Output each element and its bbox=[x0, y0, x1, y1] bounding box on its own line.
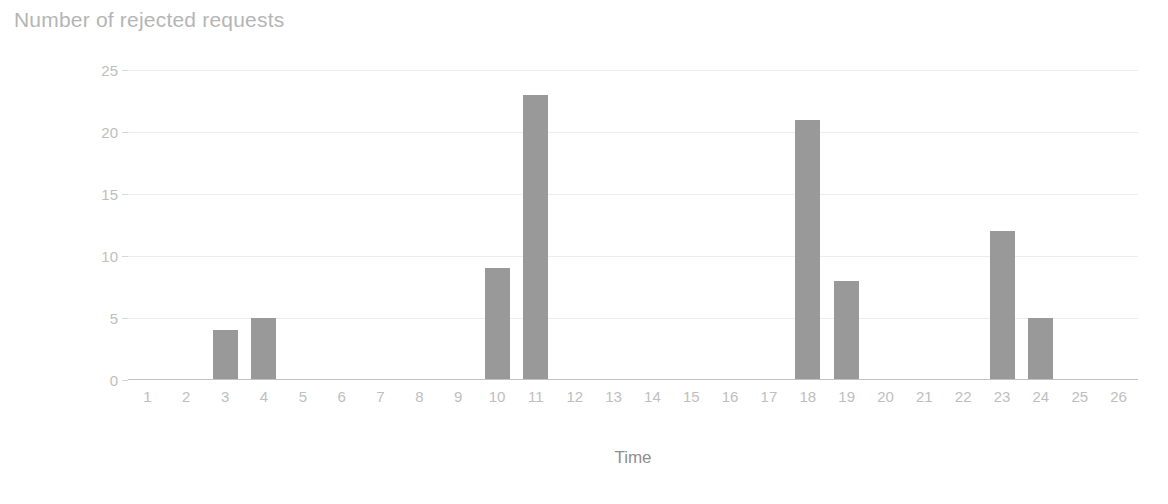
x-tick-label: 12 bbox=[555, 389, 595, 404]
x-tick-label: 22 bbox=[943, 389, 983, 404]
x-tick-label: 6 bbox=[322, 389, 362, 404]
x-tick-label: 2 bbox=[166, 389, 206, 404]
bar bbox=[485, 268, 510, 380]
x-tick-label: 24 bbox=[1021, 389, 1061, 404]
x-tick-label: 11 bbox=[516, 389, 556, 404]
x-axis-title: Time bbox=[128, 448, 1138, 468]
bar bbox=[523, 95, 548, 380]
bar bbox=[990, 231, 1015, 380]
x-tick-label: 9 bbox=[438, 389, 478, 404]
y-tick-mark bbox=[122, 132, 128, 133]
gridline bbox=[128, 256, 1138, 257]
y-tick-label: 0 bbox=[78, 373, 118, 388]
x-tick-label: 13 bbox=[594, 389, 634, 404]
bar bbox=[251, 318, 276, 380]
x-tick-label: 15 bbox=[671, 389, 711, 404]
chart-title: Number of rejected requests bbox=[14, 8, 284, 32]
x-tick-label: 17 bbox=[749, 389, 789, 404]
y-tick-label: 15 bbox=[78, 187, 118, 202]
x-tick-label: 7 bbox=[361, 389, 401, 404]
y-tick-label: 20 bbox=[78, 125, 118, 140]
x-tick-label: 20 bbox=[866, 389, 906, 404]
gridline bbox=[128, 132, 1138, 133]
x-tick-label: 8 bbox=[399, 389, 439, 404]
y-tick-mark bbox=[122, 194, 128, 195]
bar bbox=[795, 120, 820, 380]
x-tick-label: 26 bbox=[1099, 389, 1139, 404]
x-tick-label: 25 bbox=[1060, 389, 1100, 404]
y-tick-label: 5 bbox=[78, 311, 118, 326]
y-tick-mark bbox=[122, 318, 128, 319]
y-tick-label: 10 bbox=[78, 249, 118, 264]
gridline bbox=[128, 70, 1138, 71]
x-tick-label: 23 bbox=[982, 389, 1022, 404]
x-tick-label: 21 bbox=[904, 389, 944, 404]
x-tick-label: 19 bbox=[827, 389, 867, 404]
bar bbox=[213, 330, 238, 380]
y-tick-mark bbox=[122, 256, 128, 257]
x-tick-label: 14 bbox=[632, 389, 672, 404]
x-tick-label: 16 bbox=[710, 389, 750, 404]
gridline bbox=[128, 318, 1138, 319]
x-axis-line bbox=[128, 379, 1138, 380]
plot-area bbox=[128, 70, 1138, 380]
x-tick-label: 18 bbox=[788, 389, 828, 404]
x-tick-label: 5 bbox=[283, 389, 323, 404]
x-tick-label: 1 bbox=[127, 389, 167, 404]
y-tick-mark bbox=[122, 380, 128, 381]
bar bbox=[834, 281, 859, 380]
x-tick-label: 4 bbox=[244, 389, 284, 404]
x-tick-label: 10 bbox=[477, 389, 517, 404]
bar-chart: Number of rejected requests Number of re… bbox=[0, 0, 1168, 504]
y-tick-label: 25 bbox=[78, 63, 118, 78]
gridline bbox=[128, 194, 1138, 195]
x-tick-label: 3 bbox=[205, 389, 245, 404]
y-tick-mark bbox=[122, 70, 128, 71]
bar bbox=[1028, 318, 1053, 380]
